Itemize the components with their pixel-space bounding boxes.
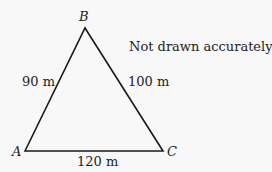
- vertex-label-a: A: [12, 145, 21, 158]
- not-drawn-accurately-note: Not drawn accurately: [129, 40, 272, 53]
- side-label-ac: 120 m: [77, 155, 118, 168]
- vertex-label-c: C: [167, 145, 177, 158]
- vertex-label-b: B: [79, 10, 89, 23]
- side-label-ab: 90 m: [22, 75, 55, 88]
- side-label-bc: 100 m: [128, 75, 169, 88]
- triangle-diagram: B A C 90 m 100 m 120 m Not drawn accurat…: [0, 0, 272, 172]
